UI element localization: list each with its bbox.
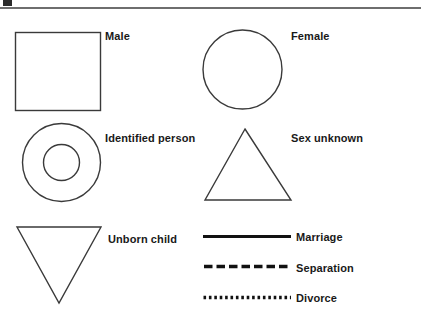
square-symbol [16, 33, 101, 111]
legend-label-unborn-child: Unborn child [108, 233, 177, 245]
legend-label-marriage: Marriage [296, 231, 343, 243]
double-circle-symbol-outer [23, 124, 101, 202]
legend-label-female: Female [291, 30, 330, 42]
triangle-down-symbol [17, 227, 101, 303]
triangle-up-symbol [205, 129, 291, 200]
legend-label-divorce: Divorce [296, 292, 337, 304]
legend-label-separation: Separation [296, 262, 354, 274]
legend-label-identified-person: Identified person [105, 132, 195, 144]
genogram-legend-canvas [0, 0, 429, 327]
legend-label-sex-unknown: Sex unknown [291, 132, 363, 144]
circle-symbol [203, 30, 282, 109]
legend-label-male: Male [105, 30, 130, 42]
double-circle-symbol-inner [44, 145, 80, 181]
